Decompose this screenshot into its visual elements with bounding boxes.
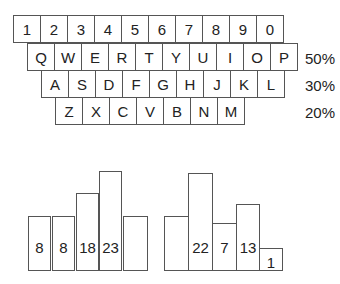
bar: 7 bbox=[212, 223, 237, 271]
key-f[interactable]: F bbox=[122, 70, 150, 98]
key-3[interactable]: 3 bbox=[67, 15, 95, 43]
home-row: A S D F G H J K L bbox=[42, 70, 285, 98]
key-8[interactable]: 8 bbox=[202, 15, 230, 43]
top-row-percent: 50% bbox=[305, 50, 335, 67]
key-x[interactable]: X bbox=[82, 97, 110, 125]
key-p[interactable]: P bbox=[270, 43, 298, 71]
key-q[interactable]: Q bbox=[27, 43, 55, 71]
key-s[interactable]: S bbox=[68, 70, 96, 98]
bar: 22 bbox=[188, 173, 213, 271]
key-z[interactable]: Z bbox=[55, 97, 83, 125]
number-row: 1 2 3 4 5 6 7 8 9 0 bbox=[14, 15, 284, 43]
key-a[interactable]: A bbox=[41, 70, 69, 98]
bar: 13 bbox=[236, 204, 260, 271]
key-2[interactable]: 2 bbox=[40, 15, 68, 43]
key-m[interactable]: M bbox=[217, 97, 245, 125]
key-1[interactable]: 1 bbox=[13, 15, 41, 43]
bar bbox=[123, 216, 148, 271]
key-b[interactable]: B bbox=[163, 97, 191, 125]
key-6[interactable]: 6 bbox=[148, 15, 176, 43]
key-k[interactable]: K bbox=[230, 70, 258, 98]
bar: 23 bbox=[99, 171, 122, 271]
key-l[interactable]: L bbox=[257, 70, 285, 98]
key-y[interactable]: Y bbox=[162, 43, 190, 71]
key-h[interactable]: H bbox=[176, 70, 204, 98]
key-t[interactable]: T bbox=[135, 43, 163, 71]
key-w[interactable]: W bbox=[54, 43, 82, 71]
key-r[interactable]: R bbox=[108, 43, 136, 71]
bar bbox=[164, 216, 189, 271]
key-7[interactable]: 7 bbox=[175, 15, 203, 43]
key-v[interactable]: V bbox=[136, 97, 164, 125]
bottom-letter-row: Z X C V B N M bbox=[56, 97, 245, 125]
key-d[interactable]: D bbox=[95, 70, 123, 98]
left-bar-group: 8 8 18 23 bbox=[28, 160, 150, 270]
key-0[interactable]: 0 bbox=[256, 15, 284, 43]
key-i[interactable]: I bbox=[216, 43, 244, 71]
bar: 8 bbox=[28, 216, 51, 271]
key-5[interactable]: 5 bbox=[121, 15, 149, 43]
key-c[interactable]: C bbox=[109, 97, 137, 125]
key-e[interactable]: E bbox=[81, 43, 109, 71]
bar: 18 bbox=[76, 193, 99, 271]
key-9[interactable]: 9 bbox=[229, 15, 257, 43]
right-bar-group: 22 7 13 1 bbox=[164, 160, 286, 270]
key-u[interactable]: U bbox=[189, 43, 217, 71]
bottom-row-percent: 20% bbox=[305, 104, 335, 121]
key-j[interactable]: J bbox=[203, 70, 231, 98]
bar: 1 bbox=[259, 248, 283, 271]
top-letter-row: Q W E R T Y U I O P bbox=[28, 43, 298, 71]
key-n[interactable]: N bbox=[190, 97, 218, 125]
key-o[interactable]: O bbox=[243, 43, 271, 71]
key-g[interactable]: G bbox=[149, 70, 177, 98]
key-4[interactable]: 4 bbox=[94, 15, 122, 43]
home-row-percent: 30% bbox=[305, 77, 335, 94]
bar: 8 bbox=[52, 216, 75, 271]
